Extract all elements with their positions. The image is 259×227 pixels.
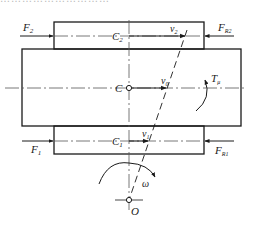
label-v0: v0	[161, 75, 168, 87]
torque-T-mu-arc	[196, 80, 207, 111]
label-v1: v1	[142, 128, 149, 140]
velocity-distribution-line	[129, 30, 187, 200]
label-O: O	[131, 205, 139, 217]
label-FR2: FR2	[217, 21, 231, 34]
label-C2: C2	[112, 30, 123, 44]
label-F2: F2	[22, 21, 34, 35]
label-F1: F1	[30, 143, 41, 157]
label-T-mu: Tμ	[211, 72, 220, 85]
pivot-point-O	[126, 197, 131, 202]
mechanism-diagram: F2 FR2 F1 FR1 C2 C C1 v2 v0 v1 Tμ ω O	[0, 0, 259, 227]
label-C: C	[115, 82, 123, 94]
label-omega: ω	[142, 178, 149, 189]
center-point-C	[126, 85, 131, 90]
label-v2: v2	[170, 23, 177, 35]
label-FR1: FR1	[214, 144, 228, 157]
label-C1: C1	[112, 135, 123, 149]
